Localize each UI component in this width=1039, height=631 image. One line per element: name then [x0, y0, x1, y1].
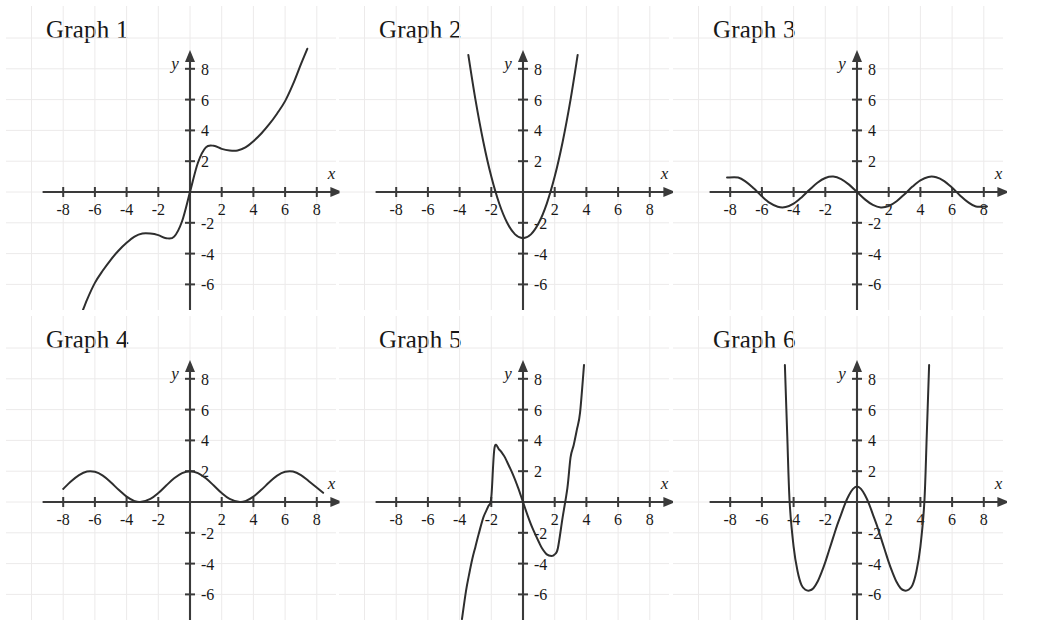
- x-tick-label: -2: [152, 511, 165, 528]
- y-tick-label: -2: [868, 215, 881, 232]
- axis-group: [710, 360, 1007, 620]
- y-tick-label: -4: [201, 246, 214, 263]
- function-curve: [70, 49, 308, 310]
- y-tick-label: 4: [534, 432, 542, 449]
- y-axis-arrow-icon: [518, 360, 528, 372]
- graph-panel: Graph 2-8-6-4-224688642-2-4-6xy: [333, 0, 673, 310]
- y-tick-label: -4: [868, 556, 881, 573]
- x-axis-arrow-icon: [997, 497, 1007, 507]
- y-tick-label: -4: [201, 556, 214, 573]
- x-tick-label: -8: [57, 201, 70, 218]
- graph-panel: Graph 5-8-6-4-224688642-2-4-6xy: [333, 310, 673, 620]
- x-tick-label: 4: [582, 511, 590, 528]
- tick-group: -8-6-4-224688642-2-4-6: [390, 371, 654, 604]
- y-axis-arrow-icon: [185, 360, 195, 372]
- x-tick-label: 6: [614, 511, 622, 528]
- y-tick-label: 6: [201, 92, 209, 109]
- x-axis-arrow-icon: [997, 187, 1007, 197]
- x-tick-label: -2: [152, 201, 165, 218]
- x-tick-label: 6: [281, 201, 289, 218]
- tick-group: -8-6-4-224688642-2-4-6: [57, 61, 321, 294]
- axis-group: [710, 50, 1007, 310]
- graph-panel: Graph 3-8-6-4-224688642-2-4-6xy: [667, 0, 1007, 310]
- y-tick-label: 6: [534, 402, 542, 419]
- coordinate-plane: -8-6-4-224688642-2-4-6xy: [667, 0, 1007, 310]
- y-tick-label: 2: [868, 463, 876, 480]
- x-tick-label: -8: [390, 201, 403, 218]
- grid: [6, 6, 336, 310]
- graph-panel: Graph 4-8-6-4-224688642-2-4-6xy: [0, 310, 340, 620]
- y-tick-label: -6: [868, 276, 881, 293]
- y-tick-label: 4: [868, 432, 876, 449]
- tick-group: -8-6-4-224688642-2-4-6: [57, 371, 321, 604]
- y-axis-label: y: [169, 364, 179, 383]
- x-tick-label: -6: [755, 201, 768, 218]
- grid: [6, 316, 336, 620]
- graph-panel: Graph 6-8-6-4-224688642-2-4-6xy: [667, 310, 1007, 620]
- y-tick-label: -4: [868, 246, 881, 263]
- y-tick-label: -2: [201, 525, 214, 542]
- x-tick-label: 8: [313, 511, 321, 528]
- grid: [339, 6, 669, 310]
- y-axis-label: y: [836, 54, 846, 73]
- y-tick-label: 2: [201, 153, 209, 170]
- coordinate-plane: -8-6-4-224688642-2-4-6xy: [333, 310, 673, 620]
- y-tick-label: 6: [868, 92, 876, 109]
- x-tick-label: -4: [787, 511, 800, 528]
- x-tick-label: 2: [551, 511, 559, 528]
- x-tick-label: -4: [120, 511, 133, 528]
- x-tick-label: 4: [249, 201, 257, 218]
- tick-group: -8-6-4-224688642-2-4-6: [724, 61, 988, 294]
- y-tick-label: 8: [868, 371, 876, 388]
- x-tick-label: 6: [948, 201, 956, 218]
- x-tick-label: 2: [885, 511, 893, 528]
- x-tick-label: -2: [485, 201, 498, 218]
- y-tick-label: -6: [534, 276, 547, 293]
- curve-group: [70, 49, 308, 310]
- x-tick-label: -8: [724, 201, 737, 218]
- axis-group: [43, 360, 340, 620]
- x-tick-label: 2: [218, 201, 226, 218]
- y-axis-arrow-icon: [852, 360, 862, 372]
- x-tick-label: 4: [582, 201, 590, 218]
- graph-panel: Graph 1-8-6-4-224688642-2-4-6xy: [0, 0, 340, 310]
- x-tick-label: -6: [755, 511, 768, 528]
- y-tick-label: -2: [201, 215, 214, 232]
- coordinate-plane: -8-6-4-224688642-2-4-6xy: [0, 0, 340, 310]
- grid: [673, 6, 1003, 310]
- y-tick-label: 8: [868, 61, 876, 78]
- x-tick-label: -2: [819, 201, 832, 218]
- x-tick-label: 2: [551, 201, 559, 218]
- y-tick-label: 8: [534, 61, 542, 78]
- axis-group: [376, 50, 673, 310]
- x-tick-label: -2: [485, 511, 498, 528]
- x-tick-label: -8: [724, 511, 737, 528]
- x-tick-label: 6: [281, 511, 289, 528]
- coordinate-plane: -8-6-4-224688642-2-4-6xy: [0, 310, 340, 620]
- x-tick-label: 4: [916, 201, 924, 218]
- x-tick-label: 8: [313, 201, 321, 218]
- y-axis-arrow-icon: [852, 50, 862, 62]
- y-tick-label: 2: [534, 153, 542, 170]
- y-tick-label: 8: [534, 371, 542, 388]
- x-axis-label: x: [994, 474, 1003, 493]
- y-tick-label: 4: [201, 122, 209, 139]
- x-tick-label: -6: [421, 511, 434, 528]
- y-tick-label: 6: [868, 402, 876, 419]
- x-tick-label: -8: [390, 511, 403, 528]
- y-axis-arrow-icon: [185, 50, 195, 62]
- x-tick-label: 6: [948, 511, 956, 528]
- y-axis-label: y: [169, 54, 179, 73]
- x-tick-label: 8: [646, 511, 654, 528]
- x-tick-label: -6: [88, 201, 101, 218]
- graph-worksheet: Graph 1-8-6-4-224688642-2-4-6xyGraph 2-8…: [0, 0, 1039, 631]
- x-tick-label: -4: [453, 511, 466, 528]
- y-tick-label: 6: [201, 402, 209, 419]
- y-axis-label: y: [836, 364, 846, 383]
- tick-group: -8-6-4-224688642-2-4-6: [390, 61, 654, 294]
- y-axis-arrow-icon: [518, 50, 528, 62]
- y-tick-label: -6: [868, 586, 881, 603]
- y-axis-label: y: [502, 54, 512, 73]
- x-tick-label: 8: [646, 201, 654, 218]
- y-tick-label: 4: [201, 432, 209, 449]
